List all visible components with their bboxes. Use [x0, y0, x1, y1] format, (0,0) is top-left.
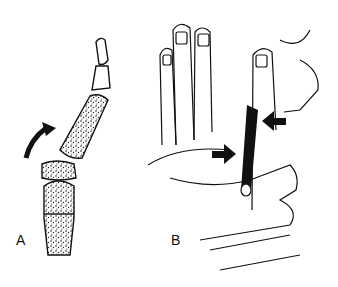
panel-label-a: A	[16, 232, 25, 248]
figure-illustration	[0, 0, 338, 287]
panel-label-b: B	[171, 232, 180, 248]
pressure-arrow-left-icon	[262, 111, 286, 131]
panel-a-bones	[42, 38, 110, 255]
finger-highlight	[241, 105, 258, 193]
curved-arrow-icon	[26, 122, 56, 158]
pressure-arrow-right-icon	[212, 144, 236, 164]
